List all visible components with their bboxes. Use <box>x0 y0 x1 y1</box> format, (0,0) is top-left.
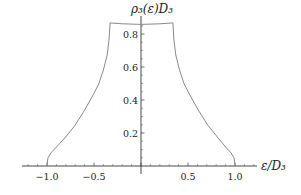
x-tick-label: −1.0 <box>35 171 58 182</box>
x-tick-label: −0.5 <box>82 171 105 182</box>
x-tick-label: 1.0 <box>227 171 242 182</box>
y-tick-label: 0.2 <box>123 128 138 139</box>
x-axis: −1.0−0.50.51.0 <box>22 163 257 183</box>
y-tick-label: 0.8 <box>123 29 138 40</box>
y-tick-label: 0.6 <box>123 62 138 73</box>
x-tick-label: 0.5 <box>180 171 195 182</box>
y-axis: 0.20.40.60.8 <box>123 16 145 174</box>
y-tick-label: 0.4 <box>123 95 138 106</box>
density-of-states-chart: −1.0−0.50.51.0 0.20.40.60.8 ρ₃(ε)D₃ ε/D₃ <box>0 0 301 195</box>
x-axis-label: ε/D₃ <box>261 159 286 173</box>
y-axis-label: ρ₃(ε)D₃ <box>130 2 173 16</box>
